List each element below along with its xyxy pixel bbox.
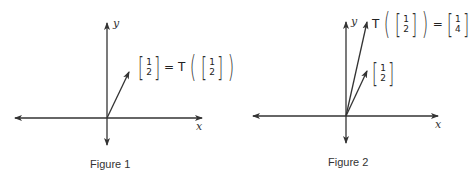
original-vector: [ 12 ]: [370, 62, 396, 84]
transform-operator: T: [372, 17, 379, 31]
figure-1-y-label: y: [113, 17, 119, 30]
transform-operator: T: [178, 60, 185, 74]
equals-sign: =: [164, 60, 174, 74]
figure-2-original-label: [ 12 ]: [370, 62, 396, 84]
input-vector: [ 12 ]: [393, 13, 419, 35]
figure-1-caption: Figure 1: [90, 158, 130, 170]
figure-1-vector-label: [ 12 ] = T ( [ 12 ] ): [136, 56, 237, 78]
lhs-vector: [ 12 ]: [136, 56, 162, 78]
figure-2-axes: [253, 22, 438, 143]
figure-2-y-label: y: [351, 15, 357, 28]
equals-sign: =: [433, 17, 443, 31]
figure-2-x-label: x: [435, 118, 441, 131]
figure-1-x-label: x: [196, 120, 202, 133]
figure-2-transformed-label: T ( [ 12 ] ) = [ 14 ]: [370, 13, 471, 35]
rhs-vector: [ 12 ]: [199, 56, 225, 78]
figure-2-vector-1-4: [346, 22, 367, 116]
figure-1-axes: [15, 23, 202, 145]
output-vector: [ 14 ]: [445, 13, 471, 35]
figure-1-vector-1-2: [107, 72, 129, 118]
figure-2-caption: Figure 2: [328, 156, 368, 168]
figure-2-vector-1-2: [346, 71, 367, 116]
